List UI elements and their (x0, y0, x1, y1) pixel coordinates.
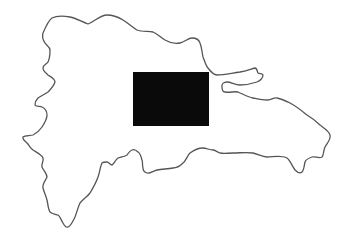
map-svg (0, 0, 349, 234)
map-canvas (0, 0, 349, 234)
highlighted-region-rectangle (133, 72, 209, 126)
